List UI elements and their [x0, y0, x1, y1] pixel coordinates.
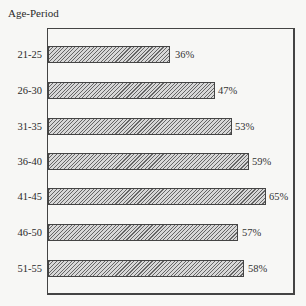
value-label: 36% — [175, 49, 194, 60]
value-label: 59% — [252, 156, 271, 167]
bar — [48, 82, 215, 99]
category-label: 21-25 — [0, 49, 42, 60]
bar — [48, 260, 244, 277]
category-label: 51-55 — [0, 263, 42, 274]
category-label: 31-35 — [0, 121, 42, 132]
category-label: 46-50 — [0, 227, 42, 238]
category-label: 36-40 — [0, 156, 42, 167]
value-label: 57% — [242, 227, 261, 238]
bar — [48, 46, 170, 63]
category-label: 26-30 — [0, 85, 42, 96]
bar — [48, 153, 249, 170]
bar — [48, 118, 232, 135]
category-label: 41-45 — [0, 191, 42, 202]
value-label: 47% — [218, 85, 237, 96]
y-axis-title: Age-Period — [8, 7, 59, 19]
bar — [48, 188, 266, 205]
value-label: 58% — [248, 263, 267, 274]
bar — [48, 224, 238, 241]
value-label: 65% — [269, 191, 288, 202]
value-label: 53% — [235, 121, 254, 132]
